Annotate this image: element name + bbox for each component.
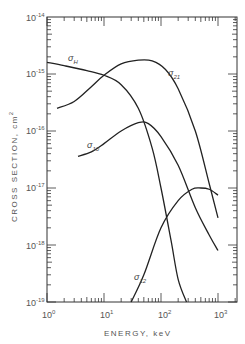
label-sigma-h: σH xyxy=(68,53,78,65)
curve-sigma-10 xyxy=(78,122,218,251)
y-tick-label: 10-17 xyxy=(26,182,45,193)
y-tick-label: 10-14 xyxy=(26,12,45,23)
y-tick-labels: 10-14 10-15 10-16 10-17 10-18 10-19 xyxy=(26,12,45,308)
x-tick-label: 102 xyxy=(158,309,172,320)
x-tick-labels: 100 101 102 103 xyxy=(42,309,228,320)
x-tick-label: 103 xyxy=(214,309,228,320)
x-axis-title: ENERGY, keV xyxy=(104,329,171,338)
curve-sigma-12 xyxy=(131,188,218,302)
curve-sigma-h xyxy=(47,62,186,302)
curves xyxy=(47,60,218,302)
y-tick-label: 10-18 xyxy=(26,240,45,251)
label-sigma-10: σ10 xyxy=(87,140,100,152)
x-tick-label: 100 xyxy=(42,309,56,320)
y-axis-title: CROSS SECTION, cm2 xyxy=(8,110,19,222)
label-sigma-21: σ21 xyxy=(168,68,180,80)
cross-section-chart: 10-14 10-15 10-16 10-17 10-18 10-19 100 … xyxy=(0,0,245,344)
x-tick-label: 101 xyxy=(100,309,114,320)
curve-sigma-21 xyxy=(57,60,218,218)
y-tick-label: 10-19 xyxy=(26,297,45,308)
y-tick-label: 10-15 xyxy=(26,68,45,79)
y-tick-label: 10-16 xyxy=(26,125,45,136)
